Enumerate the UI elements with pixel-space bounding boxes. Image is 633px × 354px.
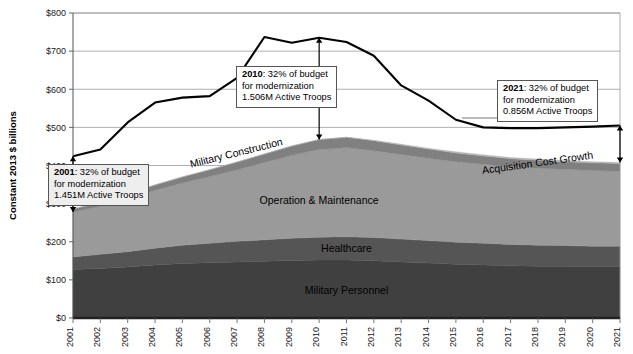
y-tick-label: $500 [46,123,66,133]
y-tick-label: $600 [46,85,66,95]
callout-2001: 2001: 32% of budget for modernization 1.… [48,164,149,206]
callout-2001-line2: for modernization [54,179,143,191]
x-tick-label: 2010 [311,327,321,347]
callout-2010: 2010: 32% of budget for modernization 1.… [236,66,337,108]
callout-2021: 2021: 32% of budget for modernization 0.… [497,80,598,122]
x-tick-label: 2021 [612,327,622,347]
x-tick-label: 2007 [229,327,239,347]
band-label-operation-maintenance: Operation & Maintenance [260,194,379,206]
x-tick-label: 2008 [256,327,266,347]
x-tick-label: 2016 [475,327,485,347]
y-tick-label: $700 [46,46,66,56]
y-tick-label: $800 [46,8,66,18]
arrowhead-down [316,135,322,140]
y-tick-label: $0 [56,313,66,323]
callout-2010-line1: 2010: 32% of budget [242,69,331,81]
x-tick-label: 2003 [120,327,130,347]
callout-2021-line3: 0.856M Active Troops [503,106,592,118]
callout-2010-line3: 1.506M Active Troops [242,92,331,104]
x-tick-label: 2004 [147,327,157,347]
x-tick-label: 2020 [585,327,595,347]
y-tick-label: $200 [46,237,66,247]
x-tick-label: 2013 [393,327,403,347]
y-axis-title: Constant 2013 $ billions [7,111,18,220]
band-label-military-personnel: Military Personnel [305,284,388,296]
callout-2001-line1: 2001: 32% of budget [54,167,143,179]
x-tick-label: 2005 [174,327,184,347]
x-tick-label: 2014 [421,327,431,347]
callout-2001-line3: 1.451M Active Troops [54,190,143,202]
callout-2021-line2: for modernization [503,95,592,107]
x-tick-label: 2012 [366,327,376,347]
y-tick-label: $100 [46,275,66,285]
arrowhead-up [70,156,76,161]
x-tick-label: 2019 [557,327,567,347]
x-tick-label: 2011 [339,327,349,346]
x-tick-label: 2017 [503,327,513,347]
callout-2021-line1: 2021: 32% of budget [503,83,592,95]
x-tick-label: 2002 [92,327,102,347]
x-tick-label: 2018 [530,327,540,347]
chart-container: $0$100$200$300$400$500$600$700$800200120… [0,0,633,354]
x-tick-label: 2001 [65,327,75,347]
band-label-healthcare: Healthcare [321,242,372,254]
x-tick-label: 2015 [448,327,458,347]
x-tick-label: 2006 [202,327,212,347]
callout-2010-line2: for modernization [242,81,331,93]
x-tick-label: 2009 [284,327,294,347]
arrowhead-down [617,157,623,162]
